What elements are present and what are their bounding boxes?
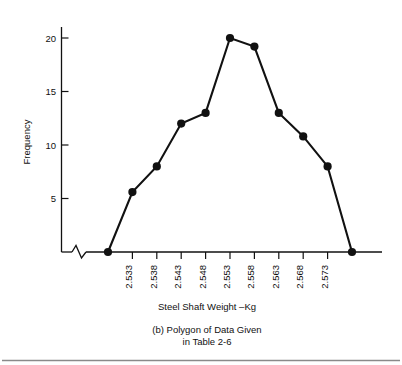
figure-container: 5101520 Frequency 2.5332.5382.5432.5482.…	[0, 0, 402, 365]
data-point-2.543	[177, 120, 185, 128]
x-tick-label-2.543: 2.543	[172, 265, 183, 289]
x-tick-label-2.558: 2.558	[245, 265, 256, 289]
x-tick-label-2.563: 2.563	[270, 265, 281, 289]
y-tick-label-15: 15	[45, 86, 56, 97]
caption-line-2: in Table 2-6	[183, 336, 232, 347]
y-tick-label-10: 10	[45, 140, 56, 151]
x-tick-label-2.553: 2.553	[221, 265, 232, 289]
x-tick-label-2.533: 2.533	[123, 265, 134, 289]
data-point-2.563	[275, 109, 283, 117]
data-point-2.528	[104, 248, 112, 256]
data-point-2.573	[324, 162, 332, 170]
data-point-2.548	[202, 109, 210, 117]
data-point-2.568	[299, 132, 307, 140]
x-tick-label-2.548: 2.548	[197, 265, 208, 289]
data-point-2.538	[153, 162, 161, 170]
data-point-2.578	[348, 248, 356, 256]
data-point-2.553	[226, 34, 234, 42]
y-tick-label-5: 5	[51, 193, 56, 204]
caption-line-1: (b) Polygon of Data Given	[152, 324, 261, 335]
x-tick-label-2.538: 2.538	[148, 265, 159, 289]
data-point-2.533	[128, 188, 136, 196]
y-axis-title: Frequency	[21, 119, 32, 164]
y-tick-label-20: 20	[45, 33, 56, 44]
x-tick-label-2.568: 2.568	[294, 265, 305, 289]
x-axis-tick-labels: 2.5332.5382.5432.5482.5532.5582.5632.568…	[123, 265, 329, 289]
x-axis-title: Steel Shaft Weight –Kg	[158, 301, 256, 312]
data-point-2.558	[250, 42, 258, 50]
x-tick-label-2.573: 2.573	[319, 265, 330, 289]
frequency-polygon-chart: 5101520 Frequency 2.5332.5382.5432.5482.…	[0, 0, 402, 365]
